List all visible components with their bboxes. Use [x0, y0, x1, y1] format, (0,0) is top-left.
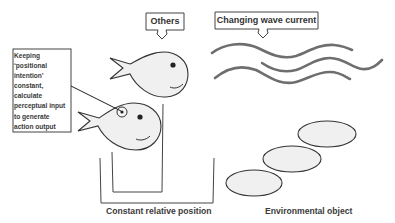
environmental-object-label: Environmental object: [265, 206, 352, 216]
wave-1: [212, 44, 352, 57]
environmental-object-3: [226, 170, 282, 196]
environmental-object-2: [263, 146, 321, 172]
callout-line: calculate: [14, 91, 70, 101]
other-fish-icon: [110, 52, 188, 97]
callout-line: to generate: [14, 112, 70, 122]
callout-text: Keeping ‘positional intention’ constant,…: [14, 51, 70, 132]
callout-line: constant,: [14, 81, 70, 91]
callout-line: perceptual input: [14, 101, 70, 111]
callout-line: ‘positional: [14, 61, 70, 71]
environmental-objects: [226, 121, 356, 196]
constant-relative-position-label: Constant relative position: [106, 206, 212, 216]
callout-line: Keeping: [14, 51, 70, 61]
diagram-canvas: Others Changing wave current Keeping ‘po…: [0, 0, 395, 223]
callout-pointer: [71, 86, 121, 111]
self-fish-eye: [137, 114, 142, 119]
outer-bracket: [100, 158, 214, 203]
wave-3: [215, 67, 350, 83]
others-label: Others: [146, 14, 184, 29]
other-fish-eye: [170, 62, 175, 67]
environmental-object-1: [298, 121, 356, 147]
wave-current-icon: [212, 44, 382, 83]
callout-line: action output: [14, 122, 70, 132]
wave-2: [262, 58, 382, 71]
callout-line: intention’: [14, 71, 70, 81]
wave-current-label: Changing wave current: [215, 13, 318, 28]
